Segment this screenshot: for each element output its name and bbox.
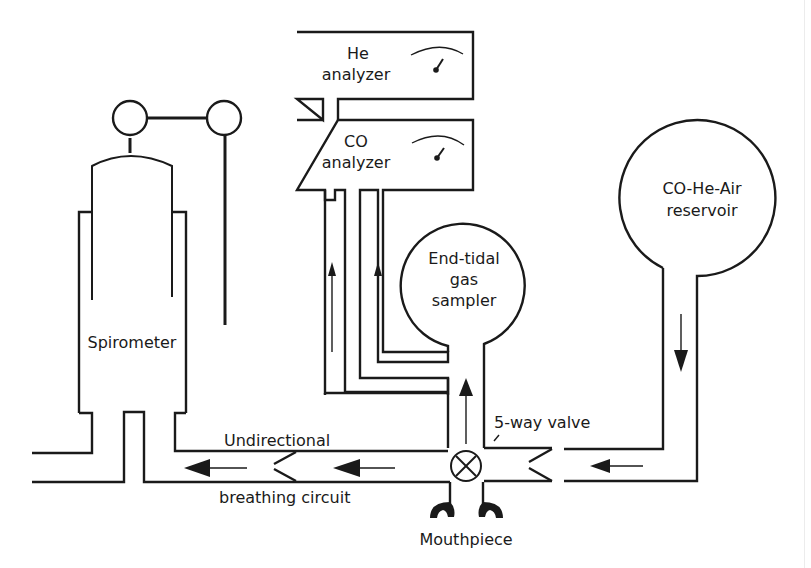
spirometer-bell	[92, 156, 172, 300]
pulley-right	[207, 101, 241, 135]
apparatus-diagram: He analyzer CO analyzer End-tidal gas	[0, 0, 811, 568]
valve-leader-line	[494, 435, 499, 441]
reservoir-bulb	[564, 120, 775, 481]
mouthpiece: Mouthpiece	[419, 482, 512, 549]
flow-arrow-up	[328, 262, 336, 352]
flow-arrow-left	[184, 459, 247, 477]
co-analyzer-label-line2: analyzer	[322, 153, 391, 172]
circuit-far-left-top	[32, 413, 92, 453]
reservoir-label-line1: CO-He-Air	[662, 179, 742, 198]
gauge-icon	[412, 136, 464, 161]
circuit-label-line2: breathing circuit	[219, 488, 350, 507]
sampler-label-line3: sampler	[432, 291, 497, 310]
reservoir: CO-He-Air reservoir	[564, 120, 775, 481]
spirometer-outer-tank	[79, 212, 186, 413]
circuit-label-line1: Undirectional	[224, 431, 330, 450]
mouthpiece-label: Mouthpiece	[419, 530, 512, 549]
pulley-left	[113, 101, 147, 135]
spirometer: Spirometer	[79, 101, 241, 413]
reservoir-label-line2: reservoir	[666, 201, 738, 220]
co-analyzer-label-line1: CO	[344, 132, 368, 151]
spirometer-label: Spirometer	[88, 333, 177, 352]
one-way-valve-flap	[274, 452, 296, 481]
he-analyzer: He analyzer	[297, 32, 473, 120]
mouthpiece-right-lip	[479, 502, 504, 518]
flow-arrow-down	[674, 314, 688, 372]
sampler-label-line1: End-tidal	[428, 249, 499, 268]
gauge-icon	[411, 47, 463, 73]
mouthpiece-left-lip	[430, 502, 455, 518]
flow-arrow-left	[333, 459, 395, 477]
flow-arrow-up	[459, 378, 473, 444]
valve-cross-icon	[451, 451, 481, 481]
sampler-label-line2: gas	[450, 270, 478, 289]
he-analyzer-label-line1: He	[347, 44, 369, 63]
valve-label: 5-way valve	[494, 413, 590, 432]
flow-arrow-left	[590, 459, 643, 473]
flow-arrow-up	[374, 262, 382, 350]
one-way-valve-flap	[529, 449, 552, 481]
he-analyzer-label-line2: analyzer	[322, 65, 391, 84]
